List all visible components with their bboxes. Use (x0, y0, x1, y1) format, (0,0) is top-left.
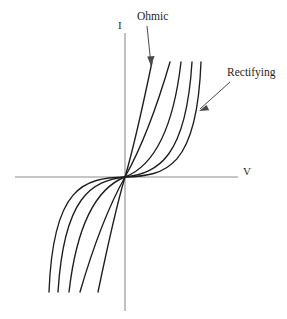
rectifying-leader-line (200, 82, 230, 109)
curve-4-q1 (125, 62, 192, 177)
rectifying-annotation-label: Rectifying (227, 67, 276, 79)
ohmic-leader-group (147, 26, 155, 66)
iv-characteristic-figure: I V Ohmic Rectifying (0, 0, 287, 319)
ohmic-annotation-label: Ohmic (137, 11, 168, 23)
ohmic-arrow-icon (147, 56, 154, 66)
rectifying-leader-group (199, 82, 230, 111)
voltage-axis-label: V (243, 166, 251, 177)
curve-4-q3 (58, 177, 125, 292)
current-axis-label: I (118, 20, 122, 31)
iv-plot-canvas (0, 0, 287, 319)
